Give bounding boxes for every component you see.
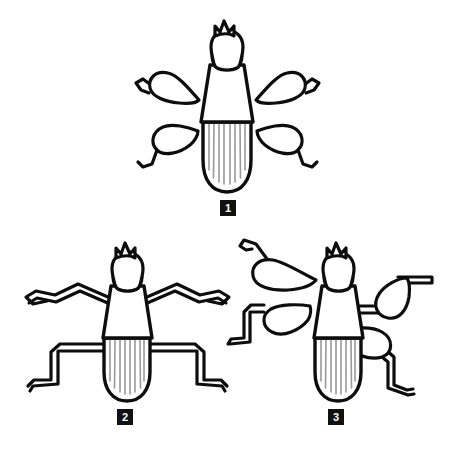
panel-3-thorax: [314, 286, 363, 338]
panel-1-label-badge: 1: [220, 200, 236, 216]
panel-3-badge-number: 3: [333, 411, 339, 423]
panel-1-abdomen: [203, 122, 251, 192]
panel-2-abdomen: [104, 338, 150, 401]
panel-2-badge-number: 2: [122, 411, 128, 423]
insect-comparison-figure: 1: [0, 0, 455, 452]
panel-1-badge-number: 1: [225, 202, 231, 214]
panel-2-label-badge: 2: [117, 409, 133, 425]
panel-1-thorax: [201, 65, 253, 122]
panel-3-label-badge: 3: [328, 409, 344, 425]
panel-3-abdomen: [315, 338, 361, 401]
panel-2-thorax: [103, 286, 152, 338]
